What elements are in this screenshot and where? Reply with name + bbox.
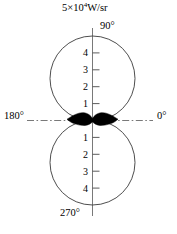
lower-radial-ticks — [93, 137, 100, 188]
radial-tick-label-upper-1: 1 — [76, 99, 88, 109]
angle-label-90: 90° — [100, 21, 115, 32]
polar-plot-figure: 5×104W/sr 90° 270° 180° 0° 4 3 2 1 1 2 3… — [0, 0, 177, 234]
unit-prefix: 5×10 — [62, 2, 84, 13]
angle-label-0: 0° — [157, 111, 166, 122]
radial-tick-label-upper-4: 4 — [76, 48, 88, 58]
radial-tick-label-upper-2: 2 — [76, 82, 88, 92]
angle-label-180: 180° — [4, 111, 24, 122]
radial-tick-label-lower-4: 4 — [76, 184, 88, 194]
polar-plot-canvas — [0, 0, 177, 234]
radial-tick-label-lower-1: 1 — [76, 133, 88, 143]
angle-label-270: 270° — [60, 208, 80, 219]
radial-tick-label-lower-2: 2 — [76, 150, 88, 160]
unit-suffix: W/sr — [87, 2, 107, 13]
upper-radial-ticks — [93, 53, 100, 104]
radial-tick-label-upper-3: 3 — [76, 65, 88, 75]
radial-tick-label-lower-3: 3 — [76, 167, 88, 177]
radial-unit-label: 5×104W/sr — [62, 3, 108, 14]
